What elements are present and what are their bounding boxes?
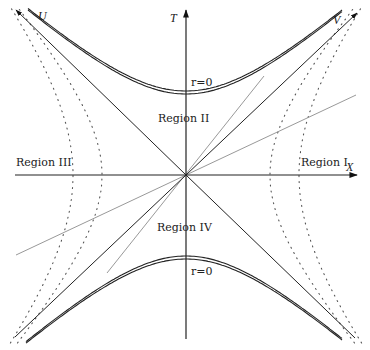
singularity-curve (28, 10, 342, 94)
v-axis (186, 13, 357, 175)
t-axis-label: T (170, 11, 178, 25)
v-axis-extension (15, 175, 186, 337)
singularity-label-top: r=0 (191, 76, 212, 89)
singularity-curve (26, 256, 342, 342)
u-axis-label: U (38, 9, 48, 23)
singularity-curve (28, 9, 342, 92)
u-axis (16, 10, 186, 175)
singularity-label-bottom: r=0 (191, 265, 212, 278)
region-2-label: Region II (158, 112, 209, 125)
v-axis-label: V (333, 13, 342, 27)
singularity-curve (26, 259, 342, 343)
region-4-label: Region IV (157, 221, 213, 234)
region-3-label: Region III (16, 156, 72, 169)
region-1-label: Region I (301, 156, 348, 169)
u-axis-extension (186, 175, 355, 338)
kruskal-diagram: T X U V r=0 r=0 Region I Region II Regio… (0, 0, 370, 350)
